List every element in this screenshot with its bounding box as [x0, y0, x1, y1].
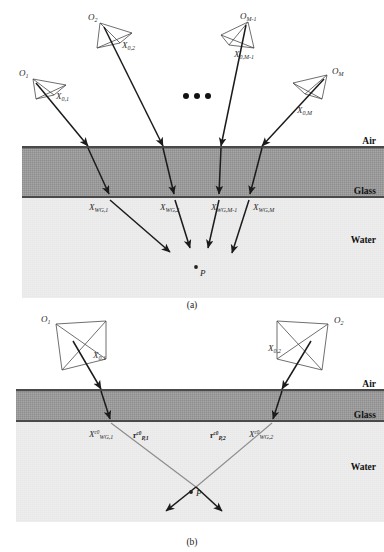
camera-m-minus-1: [221, 22, 254, 48]
camera-1-ray-label: X0,1: [55, 91, 69, 102]
ray-air-m: [262, 79, 324, 146]
ray-air-1: [36, 83, 88, 146]
glass-water-interface-b: [16, 420, 384, 422]
ray-air-b-1: [73, 341, 101, 389]
scene-point-label-a: P: [199, 268, 206, 278]
layer-label-air-b: Air: [362, 379, 377, 389]
camera-b-2-origin-label: O2: [334, 315, 344, 326]
scene-point-marker-b: [189, 490, 193, 494]
layer-label-air: Air: [362, 136, 377, 146]
camera-b-2: [277, 321, 328, 370]
camera-2-ray-label: X0,2: [121, 40, 135, 51]
scene-point-label-b: P: [195, 488, 202, 498]
air-glass-interface-b: [16, 389, 384, 391]
camera-2-origin-label: O2: [88, 12, 98, 23]
water-band-b: [16, 422, 384, 522]
panel-b: Air Glass Water O1 X0,1 Xc0WG,1: [16, 314, 384, 548]
camera-m-minus-1-origin-label: OM-1: [240, 11, 257, 22]
figure-root: Air Glass Water O1 X0,1 XWG,1: [0, 0, 384, 552]
air-glass-interface: [22, 146, 384, 148]
camera-b-1-origin-label: O1: [41, 314, 51, 325]
glass-band: [22, 148, 384, 198]
layer-label-water-b: Water: [351, 462, 377, 472]
panel-a-caption: (a): [187, 300, 198, 311]
camera-m-minus-1-ray-label: X0,M-1: [233, 49, 254, 60]
panel-a: Air Glass Water O1 X0,1 XWG,1: [19, 11, 384, 311]
camera-b-2-ray-label: X0,2: [267, 343, 281, 354]
camera-b-1: [56, 321, 106, 370]
ray-air-b-2: [282, 341, 311, 389]
ellipsis-dots: [183, 93, 211, 99]
panel-b-caption: (b): [186, 537, 197, 548]
layer-label-water: Water: [351, 235, 377, 245]
panel-b-layers: [16, 389, 384, 522]
camera-b-1-ray-label: X0,1: [92, 350, 106, 361]
camera-m: [293, 75, 327, 99]
scene-point-marker-a: [194, 265, 198, 269]
glass-band-b: [16, 391, 384, 422]
camera-m-origin-label: OM: [332, 66, 345, 77]
figure-canvas: Air Glass Water O1 X0,1 XWG,1: [0, 0, 384, 552]
ray-air-m-minus-1: [221, 25, 246, 146]
layer-label-glass: Glass: [354, 186, 376, 196]
camera-1-origin-label: O1: [19, 68, 29, 79]
layer-label-glass-b: Glass: [354, 410, 376, 420]
water-band: [22, 198, 384, 298]
